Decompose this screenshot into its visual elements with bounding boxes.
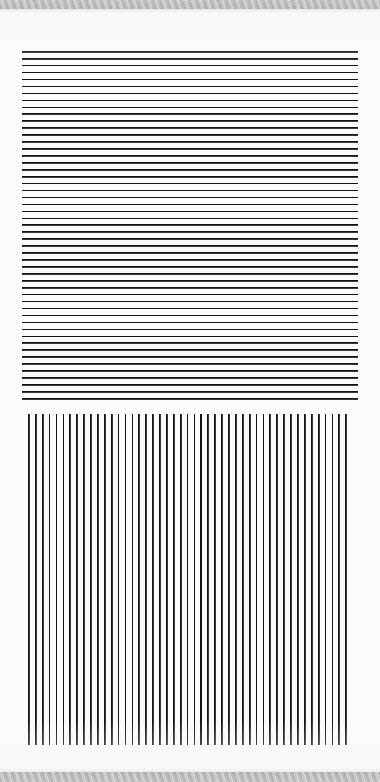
top-diagonal-hatch-band [0, 0, 380, 9]
bottom-diagonal-hatch-band [0, 772, 380, 782]
top-band-shadow [0, 9, 380, 13]
vertical-rule-grating [28, 414, 352, 745]
page-canvas [0, 0, 380, 782]
horizontal-rule-grating [22, 51, 358, 405]
